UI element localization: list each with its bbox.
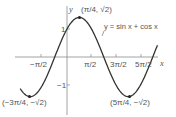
- curve-label: y = sin x + cos x: [104, 22, 158, 31]
- peak-annotation: (π/4, √2): [81, 5, 112, 14]
- curve-label-pointer: [102, 31, 104, 36]
- function-plot: y x −π/2 π/2 3π/2 5π/2 1 −1 (π/4, √2) (−…: [0, 0, 176, 117]
- min-left-annotation: (−3π/4, −√2): [2, 98, 47, 107]
- y-tick-label: −1: [57, 81, 67, 90]
- peak-point: [78, 16, 81, 19]
- x-tick-label: π/2: [84, 60, 97, 69]
- x-tick-label: 5π/2: [135, 60, 152, 69]
- x-tick-label: 3π/2: [110, 60, 127, 69]
- min-right-annotation: (5π/4, −√2): [110, 98, 150, 107]
- y-axis-label: y: [68, 4, 73, 14]
- y-tick-label: 1: [61, 25, 66, 34]
- x-tick-label: −π/2: [30, 60, 47, 69]
- x-axis-label: x: [159, 58, 164, 68]
